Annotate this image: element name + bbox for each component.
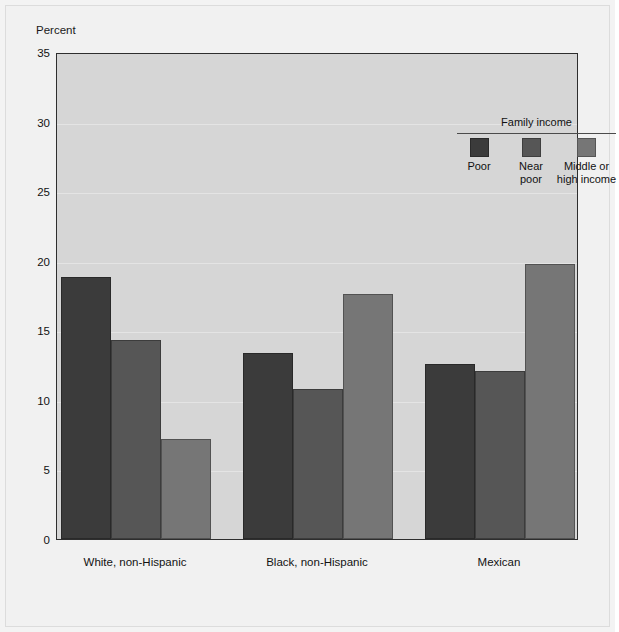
legend-label: Poor <box>454 160 504 173</box>
bar <box>343 294 393 539</box>
bar <box>111 340 161 539</box>
gridline <box>57 332 577 333</box>
legend-swatch <box>470 138 489 157</box>
bar <box>61 277 111 539</box>
bar <box>293 389 343 539</box>
bar <box>525 264 575 540</box>
x-axis-group-label: Black, non-Hispanic <box>266 556 368 568</box>
legend: Family income PoorNear poorMiddle or hig… <box>454 116 619 196</box>
legend-label: Middle or high income <box>554 160 619 185</box>
legend-swatch <box>577 138 596 157</box>
gridline <box>57 263 577 264</box>
legend-label: Near poor <box>506 160 556 185</box>
bar <box>425 364 475 539</box>
legend-item: Poor <box>454 138 504 173</box>
legend-swatch <box>522 138 541 157</box>
legend-divider <box>457 133 616 134</box>
legend-item: Middle or high income <box>554 138 619 185</box>
legend-title: Family income <box>454 116 619 128</box>
x-axis-group-label: White, non-Hispanic <box>84 556 187 568</box>
x-axis-group-label: Mexican <box>478 556 521 568</box>
bar <box>243 353 293 539</box>
plot-area: Family income PoorNear poorMiddle or hig… <box>56 53 578 540</box>
legend-item: Near poor <box>506 138 556 185</box>
bar <box>161 439 211 539</box>
y-axis-title: Percent <box>36 24 76 36</box>
bar <box>475 371 525 539</box>
